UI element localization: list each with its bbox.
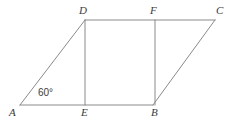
vertex-label-d: D [79, 5, 87, 16]
vertex-label-c: C [216, 5, 223, 16]
vertex-label-a: A [9, 107, 16, 118]
geometry-svg [0, 0, 235, 121]
vertex-label-e: E [81, 107, 88, 118]
angle-label-a: 60° [38, 88, 53, 98]
segment-bc [153, 20, 215, 105]
vertex-label-b: B [151, 107, 158, 118]
vertex-label-f: F [150, 5, 157, 16]
geometry-figure: D F C A E B 60° [0, 0, 235, 121]
